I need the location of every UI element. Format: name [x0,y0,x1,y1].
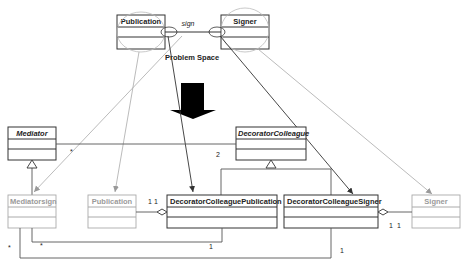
class-name: Publication [121,17,162,26]
class-name: DecoratorColleague [238,129,309,138]
generalization-triangle-icon [266,160,276,168]
multiplicity: 1 [209,243,213,250]
class-name: DecoratorColleaguePublication [170,197,282,206]
aggregation-diamond-icon [157,209,167,215]
multiplicity: 1 [154,198,158,205]
multiplicity: * [70,148,73,155]
mapping-line [220,36,353,194]
mapping-line [115,52,139,192]
class-signer-top[interactable]: Signer [221,15,269,49]
multiplicity: 1 [389,222,393,229]
class-mediatorsign[interactable]: Mediatorsign [8,195,57,228]
multiplicity: 1 [148,198,152,205]
class-name: Signer [424,197,447,206]
class-name: Signer [233,17,256,26]
class-decorator-colleague[interactable]: DecoratorColleague [236,127,309,160]
aggregation-diamond-icon [378,209,388,215]
multiplicity: 1 [340,247,344,254]
class-name: Publication [92,197,133,206]
multiplicity: 1 [397,222,401,229]
class-name: Mediator [16,129,48,138]
class-signer-bottom[interactable]: Signer [412,195,460,228]
class-publication-bottom[interactable]: Publication [88,195,136,228]
multiplicity: * [40,242,43,249]
uml-diagram-canvas: Publication Signer sign Problem Space Me… [0,0,470,279]
generalization-line [221,169,331,195]
generalization-triangle-icon [27,160,37,168]
mapping-line [34,36,182,192]
class-decorator-colleague-publication[interactable]: DecoratorColleaguePublication [167,195,282,228]
problem-space-label: Problem Space [165,53,219,62]
down-arrow-icon [170,83,216,119]
class-name: Mediatorsign [10,197,57,206]
class-decorator-colleague-signer[interactable]: DecoratorColleagueSigner [284,195,382,228]
multiplicity: * [8,244,11,251]
mapping-line [258,49,432,194]
class-mediator[interactable]: Mediator [8,127,56,160]
association-label: sign [182,20,195,28]
mediatorsign-publication-association [32,228,222,242]
class-name: DecoratorColleagueSigner [287,197,382,206]
mediatorsign-signer-association [20,228,331,258]
class-publication-top[interactable]: Publication [117,15,165,49]
multiplicity: 2 [216,151,220,158]
